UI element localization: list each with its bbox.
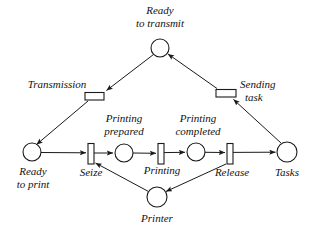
transition-transmission: [85, 93, 104, 101]
transition-sending-task: [216, 90, 236, 98]
arc-tasks-to-sending-task: [234, 100, 282, 144]
label-transmission: Transmission: [22, 78, 92, 90]
place-tasks: [277, 142, 297, 162]
label-printing-completed-line2: completed: [165, 125, 231, 138]
label-tasks: Tasks: [263, 166, 311, 178]
petri-net-diagram: Ready to transmit Transmission Sending t…: [0, 0, 322, 232]
label-seize: Seize: [66, 166, 116, 178]
arc-ready-to-transmit-to-transmission: [107, 55, 154, 91]
transition-release: [227, 144, 233, 165]
label-printer: Printer: [128, 212, 186, 224]
label-release: Release: [206, 166, 258, 178]
label-ready-to-print-line2: to print: [2, 178, 64, 191]
label-sending-task-line2: task: [240, 91, 300, 104]
label-printing: Printing: [136, 164, 188, 176]
label-ready-to-print-line1: Ready: [2, 165, 64, 178]
label-printing-prepared-line1: Printing: [94, 112, 154, 125]
label-printing-completed-line1: Printing: [165, 112, 231, 125]
place-ready-to-transmit: [151, 39, 169, 57]
label-printing-completed: Printing completed: [165, 112, 231, 137]
label-sending-task-line1: Sending: [240, 78, 300, 91]
arc-sending-task-to-ready-to-transmit: [168, 54, 217, 89]
place-ready-to-print: [23, 143, 41, 161]
label-ready-to-transmit: Ready to transmit: [122, 4, 198, 29]
label-ready-to-transmit-line1: Ready: [122, 4, 198, 17]
label-sending-task: Sending task: [240, 78, 300, 103]
transition-seize: [88, 144, 94, 165]
label-printing-prepared: Printing prepared: [94, 112, 154, 137]
place-printing-completed: [187, 143, 205, 161]
place-printer: [147, 187, 167, 207]
petri-net-canvas: [0, 0, 322, 232]
label-printing-prepared-line2: prepared: [94, 125, 154, 138]
place-printing-prepared: [115, 144, 133, 162]
arc-transmission-to-ready-to-print: [37, 101, 89, 145]
label-ready-to-transmit-line2: to transmit: [122, 17, 198, 30]
label-ready-to-print: Ready to print: [2, 165, 64, 190]
transition-printing: [158, 144, 164, 165]
